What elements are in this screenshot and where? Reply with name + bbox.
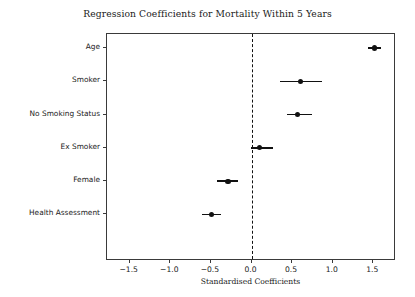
x-tick-mark [129, 260, 130, 263]
x-tick-mark [251, 260, 252, 263]
y-tick-mark [103, 213, 106, 214]
x-tick-mark [210, 260, 211, 263]
x-tick-label: −1.5 [119, 265, 137, 274]
y-tick-label-health-assessment: Health Assessment [0, 208, 100, 217]
y-tick-mark [103, 47, 106, 48]
x-tick-mark [372, 260, 373, 263]
coefficient-point [257, 145, 262, 150]
y-tick-label-female: Female [0, 175, 100, 184]
coefficient-point [295, 112, 300, 117]
y-tick-mark [103, 114, 106, 115]
y-tick-label-ex-smoker: Ex Smoker [0, 142, 100, 151]
y-tick-label-age: Age [0, 42, 100, 51]
chart-title: Regression Coefficients for Mortality Wi… [0, 8, 415, 19]
y-tick-mark [103, 180, 106, 181]
coefficient-point [209, 212, 214, 217]
y-tick-mark [103, 147, 106, 148]
x-axis-title: Standardised Coefficients [201, 277, 300, 286]
y-tick-mark [103, 80, 106, 81]
coefficient-point [298, 79, 303, 84]
coefficient-point [372, 45, 377, 50]
x-tick-label: 0.5 [285, 265, 297, 274]
regression-coefficient-plot: Regression Coefficients for Mortality Wi… [0, 0, 415, 297]
x-tick-label: −0.5 [201, 265, 219, 274]
x-tick-mark [169, 260, 170, 263]
coefficient-point [225, 179, 230, 184]
x-tick-label: 0.0 [244, 265, 256, 274]
plot-area [106, 33, 395, 260]
x-tick-label: 1.0 [326, 265, 338, 274]
x-tick-label: −1.0 [160, 265, 178, 274]
x-tick-mark [332, 260, 333, 263]
x-tick-label: 1.5 [366, 265, 378, 274]
y-tick-label-smoker: Smoker [0, 75, 100, 84]
y-tick-label-no-smoking-status: No Smoking Status [0, 109, 100, 118]
x-tick-mark [291, 260, 292, 263]
